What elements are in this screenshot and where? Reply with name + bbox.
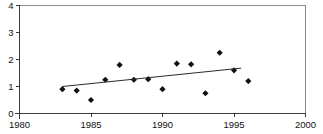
data-point-marker xyxy=(117,62,123,68)
data-point-marker xyxy=(88,97,94,103)
data-point-marker xyxy=(231,67,237,73)
data-point-marker xyxy=(159,86,165,92)
y-tick-label: 0 xyxy=(8,108,13,119)
trend-line xyxy=(62,68,241,86)
x-tick-label: 2000 xyxy=(295,119,316,130)
data-point-marker xyxy=(217,50,223,56)
y-tick-label: 4 xyxy=(8,0,13,11)
y-tick-label: 1 xyxy=(8,81,13,92)
x-tick-label: 1980 xyxy=(9,119,30,130)
x-tick-label: 1995 xyxy=(223,119,244,130)
data-point-marker xyxy=(202,90,208,96)
x-tick-label: 1990 xyxy=(152,119,173,130)
data-point-marker xyxy=(74,87,80,93)
data-point-marker xyxy=(245,78,251,84)
data-point-marker xyxy=(188,61,194,67)
y-tick-label: 3 xyxy=(8,27,13,38)
scatter-chart: 0123419801985199019952000 xyxy=(0,0,323,134)
data-point-marker xyxy=(174,60,180,66)
x-tick-label: 1985 xyxy=(80,119,101,130)
y-tick-label: 2 xyxy=(8,54,13,65)
chart-canvas: 0123419801985199019952000 xyxy=(0,0,323,134)
data-point-marker xyxy=(59,86,65,92)
